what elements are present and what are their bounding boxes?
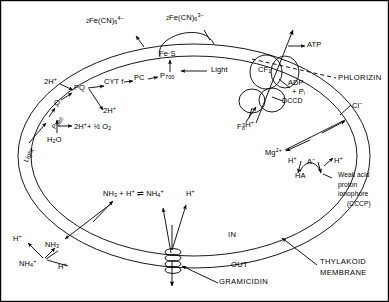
compartment-in-label: IN — [228, 231, 236, 240]
thylakoid-membrane-diagram: 2Fe(CN)64− 2Fe(CN)63− Fe·S Light P700 PC… — [0, 0, 389, 302]
ammonia-outer-nh3-label: NH3 — [45, 241, 59, 249]
ionophore-ha-label: HA — [295, 172, 306, 180]
ionophore-caption-line1: Weak acid — [338, 171, 370, 178]
ionophore-caption-line4: (CCCP) — [347, 200, 371, 207]
chloride-label: Cl− — [352, 100, 363, 110]
cl-label-pointer — [340, 105, 351, 115]
ionophore-anion-label: A− — [307, 156, 315, 166]
pi-label: + Pi — [292, 88, 305, 96]
cf1-label: CF1 — [258, 66, 271, 74]
atp-label: ATP — [307, 41, 321, 49]
pq-label: PQ — [74, 84, 85, 92]
protons-released-label: 2H+ — [103, 105, 116, 115]
mg-influx-arrow — [286, 140, 310, 151]
magnesium-label: Mg2+ — [265, 147, 282, 157]
ammonia-outer-proton2-label: H+ — [58, 261, 67, 271]
ionophore-proton-right-label: H+ — [334, 155, 343, 165]
pc-label: PC — [134, 74, 145, 82]
gramicidin-label: GRAMICIDIN — [219, 278, 268, 287]
nh4-uptake-arrow — [163, 208, 171, 253]
outer-nh4-to-h-arrow — [28, 243, 43, 258]
nh3-influx-arrow — [65, 203, 112, 239]
pq-to-cytf-arrow — [88, 86, 104, 88]
protons-to-pq-arrow — [60, 84, 73, 90]
dccd-label: DCCD — [282, 97, 303, 105]
ionophore-caption-line3: ionophore — [338, 190, 368, 197]
water-label: H2O — [47, 136, 62, 144]
protons-3h-label: 3H+ — [242, 119, 254, 129]
proton-release-arrow — [324, 158, 333, 166]
cl-efflux-arrow — [322, 121, 345, 133]
cytf-label: CYT f — [104, 78, 124, 86]
pq-release-protons-arrow — [89, 89, 103, 110]
membrane-label-line1: THYLAKOID — [320, 258, 366, 267]
gramicidin-helix — [165, 249, 181, 274]
cytf-to-pc-arrow — [124, 81, 133, 82]
mg-cl-exchange-line — [285, 120, 345, 150]
light-psii-arrow — [29, 123, 46, 143]
ferricyanide-oxidized-label: 2Fe(CN)63− — [166, 12, 204, 22]
ionophore-proton-left-label: H+ — [288, 155, 297, 165]
compartment-out-label: OUT — [231, 261, 248, 270]
membrane-label-line2: MEMBRANE — [320, 269, 367, 278]
protons-to-pq-label: 2H+ — [44, 76, 57, 86]
water-split-products-label: 2H++ ½ O2 — [74, 121, 111, 131]
p700-label: P700 — [160, 72, 174, 80]
ammonia-inner-proton-label: H+ — [186, 188, 195, 198]
phlorizin-label: PHLORIZIN — [338, 74, 382, 83]
q-label: Q — [54, 99, 60, 107]
light-psi-label: Light — [211, 66, 228, 74]
proton-release-inside-arrow — [172, 205, 186, 250]
pc-to-p700-arrow — [148, 77, 158, 79]
ferricyanide-reduced-label: 2Fe(CN)64− — [86, 15, 124, 25]
ionophore-caption-line2: proton — [338, 181, 357, 188]
ammonia-outer-nh4-label: NH4+ — [19, 258, 36, 268]
ammonia-equation-label: NH3 + H+ ⇌ NH4+ — [103, 188, 164, 198]
proton-flux-shaft-arrow — [256, 30, 293, 123]
ionophore-label-pointer — [323, 174, 332, 178]
gramicidin-label-pointer — [182, 266, 218, 283]
ferricyanide-in-arrow — [136, 36, 144, 47]
ammonia-outer-proton-label: H+ — [13, 233, 22, 243]
fes-label: Fe·S — [159, 50, 176, 58]
